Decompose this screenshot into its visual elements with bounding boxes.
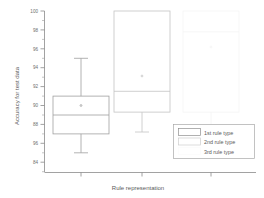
y-tick-label-84: 84 — [33, 160, 39, 165]
y-tick-label-88: 88 — [33, 122, 39, 127]
chart-background — [0, 0, 264, 198]
y-tick-label-92: 92 — [33, 84, 39, 89]
y-tick-label-96: 96 — [33, 47, 39, 52]
boxplot-chart: 100 98 96 94 92 90 88 96 84 Accuracy for… — [0, 0, 264, 198]
legend-swatch-2 — [179, 138, 201, 145]
y-tick-label-100: 100 — [30, 9, 38, 14]
y-tick-label-94: 94 — [33, 65, 39, 70]
chart-legend[interactable]: 1st rule type 2nd rule type 3rd rule typ… — [174, 125, 255, 159]
legend-label-3: 3rd rule type — [204, 149, 234, 155]
legend-label-1: 1st rule type — [204, 130, 233, 136]
legend-swatch-1 — [179, 129, 201, 136]
x-axis-title: Rule representation — [112, 185, 164, 191]
legend-swatch-3 — [179, 148, 201, 155]
chart-figure: 100 98 96 94 92 90 88 96 84 Accuracy for… — [0, 0, 264, 198]
y-tick-label-86: 96 — [33, 141, 39, 146]
y-tick-label-90: 90 — [33, 103, 39, 108]
legend-label-2: 2nd rule type — [204, 139, 235, 145]
y-tick-label-98: 98 — [33, 28, 39, 33]
y-axis-title: Accuracy for test data — [14, 66, 20, 125]
